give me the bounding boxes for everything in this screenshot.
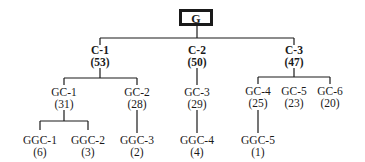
node-gc4: GC-4 (25): [245, 85, 271, 109]
node-gc6: GC-6 (20): [317, 85, 343, 109]
node-count: (28): [124, 98, 150, 110]
node-label: GGC-3: [120, 134, 154, 146]
node-label: C-3: [284, 44, 303, 56]
node-count: (4): [180, 146, 214, 158]
node-c2: C-2 (50): [187, 44, 206, 68]
node-gc2: GC-2 (28): [124, 86, 150, 110]
node-count: (29): [184, 98, 210, 110]
node-label: C-1: [90, 44, 109, 56]
node-c1: C-1 (53): [90, 44, 109, 68]
node-count: (3): [71, 146, 105, 158]
node-label: GGC-1: [23, 134, 57, 146]
node-count: (53): [90, 56, 109, 68]
node-label: GGC-4: [180, 134, 214, 146]
node-count: (25): [245, 97, 271, 109]
node-gc3: GC-3 (29): [184, 86, 210, 110]
node-ggc4: GGC-4 (4): [180, 134, 214, 158]
node-gc1: GC-1 (31): [51, 86, 77, 110]
node-ggc5: GGC-5 (1): [241, 134, 275, 158]
node-label: GC-4: [245, 85, 271, 97]
node-count: (23): [281, 97, 307, 109]
node-label: GC-2: [124, 86, 150, 98]
node-ggc1: GGC-1 (6): [23, 134, 57, 158]
node-ggc3: GGC-3 (2): [120, 134, 154, 158]
node-label: C-2: [187, 44, 206, 56]
node-gc5: GC-5 (23): [281, 85, 307, 109]
root-node-g: G: [179, 9, 213, 26]
node-count: (20): [317, 97, 343, 109]
node-label: GC-5: [281, 85, 307, 97]
node-count: (50): [187, 56, 206, 68]
node-count: (6): [23, 146, 57, 158]
node-label: GC-6: [317, 85, 343, 97]
node-count: (31): [51, 98, 77, 110]
node-count: (1): [241, 146, 275, 158]
node-c3: C-3 (47): [284, 44, 303, 68]
node-label: GC-1: [51, 86, 77, 98]
node-label: GGC-2: [71, 134, 105, 146]
node-count: (47): [284, 56, 303, 68]
node-label: GGC-5: [241, 134, 275, 146]
node-label: GC-3: [184, 86, 210, 98]
node-count: (2): [120, 146, 154, 158]
node-ggc2: GGC-2 (3): [71, 134, 105, 158]
